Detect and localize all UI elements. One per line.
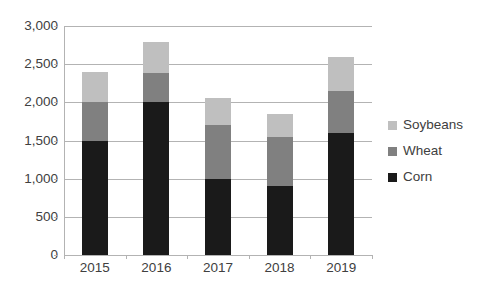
x-tick-label-2017: 2017: [187, 261, 249, 275]
bar-stack: [267, 114, 293, 255]
bar-stack: [143, 42, 169, 255]
bar-segment-wheat-2017: [205, 125, 231, 178]
bar-segment-wheat-2019: [328, 91, 354, 133]
y-tick-mark: [54, 255, 58, 256]
x-tick-mark: [126, 255, 127, 259]
x-tick-label-2015: 2015: [64, 261, 126, 275]
bar-segment-corn-2018: [267, 186, 293, 255]
y-tick-label: 3,000: [4, 19, 58, 33]
y-tick-mark: [54, 141, 58, 142]
gridline-0: [64, 255, 372, 256]
x-tick-label-2018: 2018: [249, 261, 311, 275]
y-tick-mark: [54, 179, 58, 180]
bar-segment-soybeans-2018: [267, 114, 293, 137]
y-tick-mark: [54, 64, 58, 65]
legend-item-wheat[interactable]: Wheat: [388, 138, 478, 164]
bar-segment-wheat-2016: [143, 73, 169, 102]
bar-segment-soybeans-2019: [328, 57, 354, 91]
x-tick-mark: [249, 255, 250, 259]
chart-legend: SoybeansWheatCorn: [388, 112, 478, 190]
y-tick-label: 2,500: [4, 57, 58, 71]
x-tick-mark: [372, 255, 373, 259]
y-axis-tick-labels: 05001,0001,5002,0002,5003,000: [0, 26, 58, 255]
y-tick-mark: [54, 217, 58, 218]
bar-stack: [328, 57, 354, 255]
x-tick-mark: [64, 255, 65, 259]
plot-area: [64, 26, 372, 255]
bar-group-2015: [64, 26, 126, 255]
bar-group-2017: [187, 26, 249, 255]
stacked-bar-chart: 05001,0001,5002,0002,5003,000 2015201620…: [0, 0, 481, 291]
bar-segment-soybeans-2017: [205, 98, 231, 125]
legend-item-corn[interactable]: Corn: [388, 164, 478, 190]
bar-segment-soybeans-2016: [143, 42, 169, 73]
bar-segment-corn-2019: [328, 133, 354, 255]
x-tick-label-2019: 2019: [310, 261, 372, 275]
bar-segment-corn-2016: [143, 102, 169, 255]
y-tick-label: 1,000: [4, 172, 58, 186]
legend-label: Corn: [403, 170, 432, 184]
bar-group-2016: [126, 26, 188, 255]
legend-label: Wheat: [403, 144, 442, 158]
bar-stack: [205, 98, 231, 255]
x-axis-tick-labels: 20152016201720182019: [64, 261, 372, 285]
bar-segment-wheat-2018: [267, 137, 293, 187]
legend-swatch-wheat-icon: [388, 147, 397, 156]
x-tick-label-2016: 2016: [126, 261, 188, 275]
bar-segment-corn-2017: [205, 179, 231, 255]
y-tick-mark: [54, 26, 58, 27]
y-tick-label: 0: [4, 248, 58, 262]
legend-swatch-soybeans-icon: [388, 121, 397, 130]
bar-segment-corn-2015: [82, 141, 108, 256]
y-tick-label: 2,000: [4, 96, 58, 110]
legend-swatch-corn-icon: [388, 173, 397, 182]
legend-item-soybeans[interactable]: Soybeans: [388, 112, 478, 138]
bar-segment-wheat-2015: [82, 102, 108, 140]
legend-label: Soybeans: [403, 118, 463, 132]
x-tick-mark: [187, 255, 188, 259]
bar-group-2018: [249, 26, 311, 255]
y-tick-label: 500: [4, 210, 58, 224]
bar-group-2019: [310, 26, 372, 255]
bar-segment-soybeans-2015: [82, 72, 108, 103]
y-tick-label: 1,500: [4, 134, 58, 148]
bar-stack: [82, 72, 108, 255]
x-tick-mark: [310, 255, 311, 259]
y-tick-mark: [54, 102, 58, 103]
